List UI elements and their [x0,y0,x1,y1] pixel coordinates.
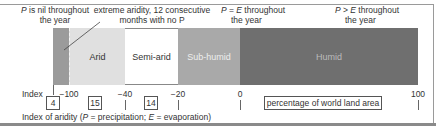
percentage-legend-box: percentage of world land area [264,96,382,110]
axis-start-tick [53,85,54,95]
axis-index-label: Index [22,89,43,99]
caption-text: = precipitation; [88,112,148,122]
caption-text: Index of aridity ( [22,112,82,122]
percentage-box-arid: 15 [88,96,102,110]
tick-label-100: 100 [411,89,425,99]
percentage-box-extreme-arid: 4 [46,96,60,110]
tick-minus-40 [125,100,126,110]
tick-100 [418,100,419,110]
tick-label-minus-40: −40 [118,89,132,99]
tick-label-minus-100: −100 [59,89,78,99]
tick-label-minus-20: −20 [171,89,185,99]
caption-text: = evaporation) [154,112,211,122]
tick-minus-20 [178,100,179,110]
leader-line [0,0,448,130]
tick-0 [240,100,241,110]
tick-label-0: 0 [238,89,243,99]
percentage-box-semi-arid: 14 [144,96,158,110]
caption: Index of aridity (P = precipitation; E =… [22,112,211,122]
